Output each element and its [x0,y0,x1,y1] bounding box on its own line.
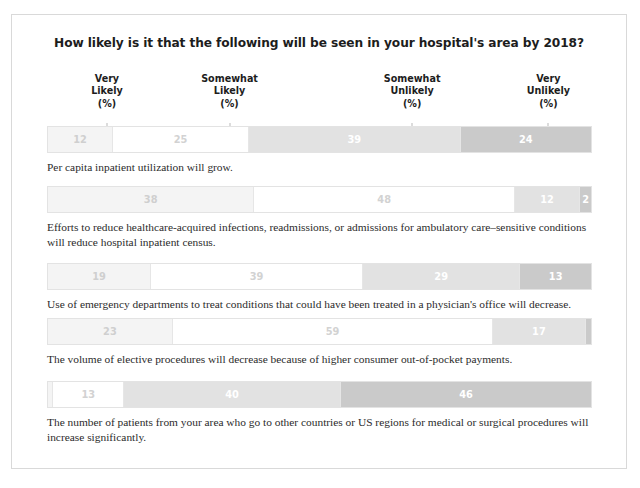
bar-segment: 12 [48,127,113,152]
bar-segment: 39 [249,127,461,152]
bar-segment: 23 [48,319,173,344]
bar-segment-value: 40 [225,389,239,400]
column-header-line: Likely [91,85,123,97]
bar-segment [586,319,591,344]
bar-segment-value: 25 [174,134,188,145]
bar-segment-value: 38 [144,194,158,205]
bar-segment: 2 [580,187,591,212]
stacked-bar: 12253924 [47,126,592,153]
bar-segment-value: 39 [347,134,361,145]
bar-segment: 13 [520,264,591,289]
bar-segment: 12 [515,187,580,212]
bar-segment-value: 13 [549,271,563,282]
column-header-line: Unlikely [527,85,570,97]
bar-segment-value: 46 [459,389,473,400]
bar-segment-value: 12 [540,194,554,205]
chart-row: 235917The volume of elective procedures … [47,318,592,367]
bar-segment: 59 [173,319,493,344]
bar-segment-value: 19 [92,271,106,282]
figure-frame: How likely is it that the following will… [11,14,627,469]
chart-row: 19392913Use of emergency departments to … [47,263,592,312]
stacked-bar: 3848122 [47,186,592,213]
bar-segment: 29 [363,264,520,289]
column-header-2: SomewhatLikely(%) [201,73,258,110]
column-header-line: (%) [201,98,258,110]
bar-segment-value: 17 [532,326,546,337]
chart-row: 134046The number of patients from your a… [47,381,592,444]
bar-segment: 46 [341,382,591,407]
bar-segment: 17 [493,319,585,344]
bar-segment: 25 [113,127,249,152]
stacked-bar: 19392913 [47,263,592,290]
column-header-line: Likely [201,85,258,97]
bar-segment-value: 48 [377,194,391,205]
bar-segment: 19 [48,264,151,289]
bar-segment: 13 [53,382,124,407]
column-header-3: SomewhatUnlikely(%) [384,73,441,110]
row-caption: Use of emergency departments to treat co… [47,297,592,312]
row-caption: Per capita inpatient utilization will gr… [47,160,592,175]
row-caption: Efforts to reduce healthcare-acquired in… [47,220,592,249]
row-caption: The volume of elective procedures will d… [47,352,592,367]
bar-segment-value: 24 [519,134,533,145]
bar-segment: 48 [254,187,515,212]
bar-segment: 39 [151,264,363,289]
column-header-line: Somewhat [201,73,258,85]
bar-segment-value: 59 [326,326,340,337]
column-header-line: Very [91,73,123,85]
column-header-1: VeryLikely(%) [91,73,123,110]
chart-title: How likely is it that the following will… [12,36,626,50]
column-header-line: (%) [91,98,123,110]
bar-segment-value: 23 [103,326,117,337]
bar-segment: 38 [48,187,254,212]
column-header-line: Very [527,73,570,85]
bar-segment-value: 13 [81,389,95,400]
bar-segment-value: 29 [434,271,448,282]
chart-row: 3848122Efforts to reduce healthcare-acqu… [47,186,592,249]
column-header-line: Somewhat [384,73,441,85]
chart-row: 12253924Per capita inpatient utilization… [47,126,592,175]
column-header-line: (%) [527,98,570,110]
bar-segment-value: 2 [582,194,589,205]
stacked-bar: 235917 [47,318,592,345]
column-header-line: (%) [384,98,441,110]
bar-segment: 24 [461,127,591,152]
stacked-bar: 134046 [47,381,592,408]
column-header-line: Unlikely [384,85,441,97]
bar-segment-value: 12 [73,134,87,145]
bar-segment: 40 [124,382,341,407]
column-header-4: VeryUnlikely(%) [527,73,570,110]
row-caption: The number of patients from your area wh… [47,415,592,444]
bar-segment-value: 39 [250,271,264,282]
